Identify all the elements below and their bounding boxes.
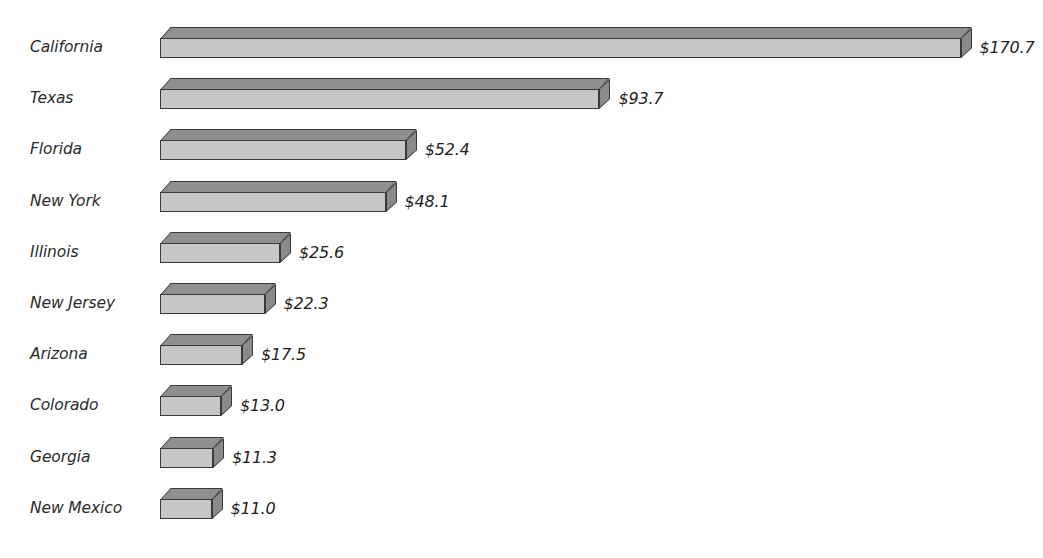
bar-chart: California$170.7Texas$93.7Florida$52.4Ne…	[0, 0, 1043, 558]
bar-chart-row: Illinois$25.6	[0, 232, 1043, 272]
bar	[160, 488, 223, 528]
category-label: New Jersey	[30, 283, 150, 323]
bar-front-face	[160, 345, 242, 365]
bar-front-face	[160, 89, 599, 109]
bar-front-face	[160, 448, 213, 468]
bar-front-face	[160, 243, 280, 263]
value-label: $22.3	[284, 283, 329, 323]
bar-front-face	[160, 140, 406, 160]
bar	[160, 437, 224, 477]
value-label: $25.6	[299, 232, 344, 272]
value-label: $93.7	[618, 78, 663, 118]
value-label: $48.1	[405, 181, 450, 221]
category-label: California	[30, 27, 150, 67]
bar-front-face	[160, 38, 961, 58]
bar	[160, 181, 397, 221]
value-label: $11.3	[232, 437, 277, 477]
value-label: $17.5	[261, 334, 306, 374]
bar	[160, 385, 232, 425]
bar	[160, 283, 276, 323]
bar-chart-row: Florida$52.4	[0, 129, 1043, 169]
category-label: Arizona	[30, 334, 150, 374]
bar	[160, 129, 417, 169]
bar	[160, 27, 972, 67]
bar	[160, 334, 253, 374]
category-label: Georgia	[30, 437, 150, 477]
bar-chart-row: Texas$93.7	[0, 78, 1043, 118]
category-label: Illinois	[30, 232, 150, 272]
value-label: $170.7	[980, 27, 1035, 67]
bar-front-face	[160, 294, 265, 314]
bar-chart-row: Arizona$17.5	[0, 334, 1043, 374]
category-label: New York	[30, 181, 150, 221]
bar-chart-row: New Jersey$22.3	[0, 283, 1043, 323]
bar	[160, 232, 291, 272]
bar	[160, 78, 610, 118]
bar-chart-row: California$170.7	[0, 27, 1043, 67]
value-label: $13.0	[240, 385, 285, 425]
value-label: $11.0	[231, 488, 276, 528]
bar-front-face	[160, 396, 221, 416]
category-label: Texas	[30, 78, 150, 118]
bar-front-face	[160, 192, 386, 212]
category-label: New Mexico	[30, 488, 150, 528]
bar-front-face	[160, 499, 212, 519]
bar-chart-row: Georgia$11.3	[0, 437, 1043, 477]
bar-chart-row: New Mexico$11.0	[0, 488, 1043, 528]
category-label: Florida	[30, 129, 150, 169]
category-label: Colorado	[30, 385, 150, 425]
bar-chart-row: Colorado$13.0	[0, 385, 1043, 425]
value-label: $52.4	[425, 129, 470, 169]
bar-chart-rows: California$170.7Texas$93.7Florida$52.4Ne…	[0, 0, 1043, 558]
bar-chart-row: New York$48.1	[0, 181, 1043, 221]
